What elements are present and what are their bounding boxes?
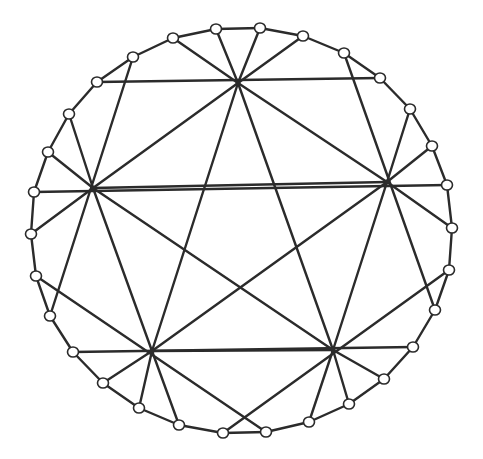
edge-line (309, 350, 333, 422)
ring-edge (410, 109, 432, 146)
ring-edge (266, 422, 309, 432)
hub-vertex (331, 348, 336, 353)
ring-node (298, 31, 309, 41)
edge-line (152, 351, 179, 425)
ring-node (447, 223, 458, 233)
ring-node (43, 147, 54, 157)
ring-node (339, 48, 350, 58)
ring-node (29, 187, 40, 197)
ring-node (430, 305, 441, 315)
edge-line (387, 109, 410, 182)
edge-line (238, 83, 333, 350)
edge-line (93, 188, 333, 350)
hub-vertex (236, 81, 241, 86)
ring-edge (260, 28, 303, 36)
ring-edge (179, 425, 223, 433)
ring-node (64, 109, 75, 119)
ring-edge-layer (31, 28, 452, 433)
ring-node (304, 417, 315, 427)
ring-node (45, 311, 56, 321)
ring-edge (133, 38, 173, 57)
ring-edge (34, 152, 48, 192)
ring-edge (432, 146, 447, 185)
ring-node (408, 342, 419, 352)
ring-node (98, 378, 109, 388)
ring-node (174, 420, 185, 430)
ring-node (379, 374, 390, 384)
ring-edge (449, 228, 452, 270)
ring-node (427, 141, 438, 151)
edge-line (152, 83, 238, 351)
ring-node (26, 229, 37, 239)
ring-edge (216, 28, 260, 29)
ring-node (168, 33, 179, 43)
edge-line (93, 83, 238, 188)
ring-edge (447, 185, 452, 228)
edge-line (238, 83, 387, 182)
ring-node (211, 24, 222, 34)
ring-edge (380, 78, 410, 109)
ring-edge (303, 36, 344, 53)
ring-node (255, 23, 266, 33)
ring-node (218, 428, 229, 438)
ring-node (92, 77, 103, 87)
ring-node (31, 271, 42, 281)
ring-edge (31, 192, 34, 234)
ring-edge (31, 234, 36, 276)
ring-edge (69, 82, 97, 114)
hub-vertex (91, 186, 96, 191)
hub-vertex (150, 349, 155, 354)
ring-edge (173, 29, 216, 38)
ring-edge (103, 383, 139, 408)
ring-node (68, 347, 79, 357)
ring-node (405, 104, 416, 114)
ring-edge (413, 310, 435, 347)
ring-edge (97, 57, 133, 82)
hub-vertex (385, 180, 390, 185)
ring-node (344, 399, 355, 409)
edge-line (333, 182, 387, 350)
ring-edge (349, 379, 384, 404)
ring-node (375, 73, 386, 83)
ring-node (134, 403, 145, 413)
ring-node (128, 52, 139, 62)
ring-node (442, 180, 453, 190)
ring-edge (384, 347, 413, 379)
edge-line (152, 182, 387, 351)
ring-node (261, 427, 272, 437)
ring-edge (48, 114, 69, 152)
ring-edge (50, 316, 73, 352)
edge-line (93, 188, 152, 351)
ring-edge (73, 352, 103, 383)
ring-node (444, 265, 455, 275)
ring-edge (223, 432, 266, 433)
graph-diagram (0, 0, 483, 459)
